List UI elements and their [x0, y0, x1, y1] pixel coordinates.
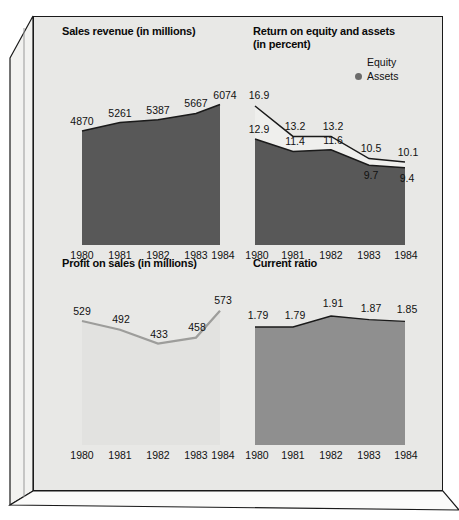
plot-area-sales-revenue: 4870 5261 5387 5667 6074 [48, 93, 234, 245]
x-axis-current-ratio: 1980 1981 1982 1983 1984 [243, 449, 433, 463]
x-tick: 1982 [319, 449, 342, 461]
chart-profit-on-sales: Profit on sales (in millions) 529 492 43… [48, 257, 234, 484]
legend-entry-assets: Assets [355, 69, 399, 83]
value-label: 458 [188, 321, 206, 333]
x-tick: 1984 [394, 449, 417, 461]
plot-svg-current-ratio [243, 295, 433, 445]
chart-title-current-ratio: Current ratio [253, 257, 433, 270]
value-label: 12.9 [249, 123, 269, 135]
value-label: 13.2 [323, 120, 343, 132]
value-label: 5261 [108, 107, 131, 119]
frame-bottom-face [10, 491, 459, 510]
frame-left-face [10, 16, 33, 505]
value-label: 6074 [213, 89, 236, 101]
value-label: 529 [73, 305, 91, 317]
x-tick: 1981 [108, 449, 131, 461]
value-label: 1.79 [248, 309, 268, 321]
chart-title-profit-on-sales: Profit on sales (in millions) [62, 257, 234, 270]
chart-grid: Sales revenue (in millions) 4870 5261 53… [34, 17, 442, 490]
report-page: Sales revenue (in millions) 4870 5261 53… [33, 16, 443, 491]
value-label: 11.4 [285, 135, 305, 147]
chart-sales-revenue: Sales revenue (in millions) 4870 5261 53… [48, 25, 234, 257]
x-axis-profit-on-sales: 1980 1981 1982 1983 1984 [48, 449, 234, 463]
series-area-current-ratio [255, 316, 405, 445]
series-area-assets [255, 139, 405, 245]
value-label: 10.1 [398, 146, 418, 158]
x-tick: 1980 [245, 449, 268, 461]
chart-title-return-on-equity: Return on equity and assets (in percent) [253, 25, 433, 51]
legend-marker-equity-icon [355, 59, 362, 66]
value-label: 5387 [146, 104, 169, 116]
x-tick: 1984 [211, 449, 234, 461]
legend-marker-assets-icon [355, 73, 362, 80]
plot-area-return-on-equity: 16.9 13.2 13.2 10.5 10.1 12.9 11.4 11.6 … [243, 93, 433, 245]
chart-page-root: Sales revenue (in millions) 4870 5261 53… [0, 0, 459, 520]
x-tick: 1983 [184, 449, 207, 461]
value-label: 573 [214, 294, 232, 306]
value-label: 4870 [70, 115, 93, 127]
legend-entry-equity: Equity [355, 55, 399, 69]
value-label: 10.5 [361, 142, 381, 154]
x-tick: 1981 [281, 449, 304, 461]
value-label: 492 [112, 313, 130, 325]
plot-area-profit-on-sales: 529 492 433 458 573 [48, 295, 234, 445]
chart-return-on-equity-and-assets: Return on equity and assets (in percent)… [243, 25, 433, 257]
value-label: 433 [150, 328, 168, 340]
chart-current-ratio: Current ratio 1.79 1.79 1.91 1.87 1.85 1… [243, 257, 433, 484]
value-label: 9.4 [400, 172, 415, 184]
value-label: 16.9 [249, 89, 269, 101]
value-label: 11.6 [323, 134, 343, 146]
value-label: 13.2 [285, 120, 305, 132]
x-tick: 1980 [70, 449, 93, 461]
value-label: 1.85 [397, 303, 417, 315]
chart-title-sales-revenue: Sales revenue (in millions) [62, 25, 234, 38]
value-label: 1.87 [361, 302, 381, 314]
legend-label-assets: Assets [367, 69, 399, 83]
value-label: 1.91 [323, 297, 343, 309]
plot-area-current-ratio: 1.79 1.79 1.91 1.87 1.85 [243, 295, 433, 445]
x-tick: 1982 [146, 449, 169, 461]
plot-svg-profit-on-sales [48, 295, 234, 445]
x-tick: 1983 [357, 449, 380, 461]
value-label: 5667 [184, 97, 207, 109]
value-label: 1.79 [285, 309, 305, 321]
legend-return-on-equity: Equity Assets [355, 55, 399, 83]
plot-svg-return-on-equity [243, 93, 433, 245]
value-label: 9.7 [364, 169, 379, 181]
legend-label-equity: Equity [367, 55, 396, 69]
